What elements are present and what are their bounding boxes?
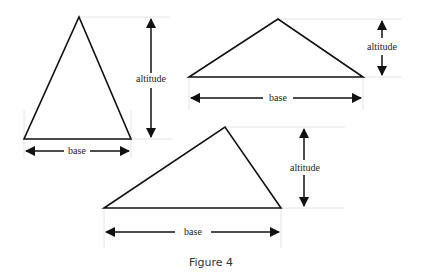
triangle-1-group: altitude base [24,17,172,158]
triangle-2 [189,19,363,77]
triangle-1 [24,17,131,139]
triangle-2-group: altitude base [189,19,402,110]
triangle-altitude-diagram: altitude base altitude base altitude bas… [0,0,422,280]
base-label-1: base [68,145,86,156]
altitude-label-1: altitude [136,73,167,84]
triangle-3-group: altitude base [104,127,345,248]
figure-caption: Figure 4 [189,256,233,269]
base-label-2: base [269,92,287,103]
altitude-label-3: altitude [290,162,321,173]
altitude-label-2: altitude [367,41,398,52]
base-label-3: base [184,226,202,237]
